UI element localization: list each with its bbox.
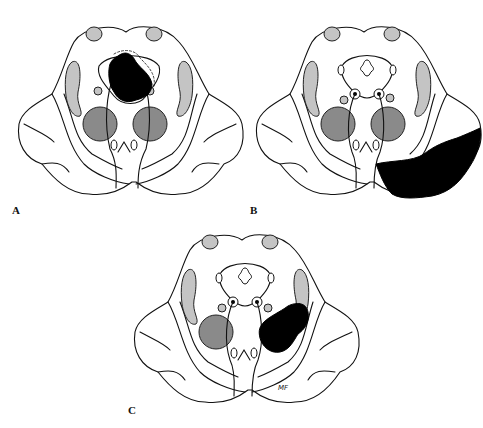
dorsal-nucleus-left <box>86 27 102 41</box>
section-outline <box>134 235 359 403</box>
panel-label-b: B <box>250 204 257 216</box>
dorsal-nucleus-right <box>384 27 400 41</box>
brainstem-section-b <box>252 14 482 199</box>
panel-label-c: C <box>128 404 136 416</box>
artist-signature: MF <box>278 384 288 392</box>
pontine-nucleus-left <box>83 107 117 141</box>
section-outline <box>18 27 243 195</box>
pontine-nucleus-right <box>371 107 405 141</box>
pontine-nucleus-right <box>133 107 167 141</box>
brainstem-section-a <box>14 14 244 199</box>
panel-label-a: A <box>12 204 20 216</box>
panel-a: A <box>14 14 244 199</box>
dorsal-nucleus-right <box>262 235 278 249</box>
dorsal-nucleus-left <box>324 27 340 41</box>
brainstem-section-c <box>130 222 360 407</box>
panel-c: C MF <box>130 222 360 407</box>
dorsal-nucleus-right <box>146 27 162 41</box>
dorsal-nucleus-left <box>202 235 218 249</box>
panel-b: B <box>252 14 482 199</box>
